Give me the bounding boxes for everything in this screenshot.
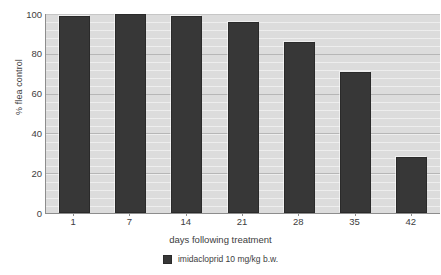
y-axis-tick-label: 20 [14,169,42,179]
bar [228,22,259,213]
x-axis-tickmark [355,213,356,216]
x-axis-tick-label: 14 [166,216,206,227]
x-axis-tickmark [298,213,299,216]
x-axis-tickmark [73,213,74,216]
x-axis-tickmark [186,213,187,216]
x-axis-tick-label: 42 [391,216,431,227]
x-axis-tickmark [129,213,130,216]
x-axis-tick-label: 21 [222,216,262,227]
chart-legend: imidacloprid 10 mg/kg b.w. [0,254,441,264]
bar [340,72,371,213]
flea-control-bar-chart: % flea control 020406080100 171421283542… [0,0,441,275]
x-axis-tickmark [242,213,243,216]
x-axis-tick-label: 7 [109,216,149,227]
x-axis-tick-labels: 171421283542 [45,216,439,232]
bar [59,16,90,213]
y-axis-tick-label: 0 [14,209,42,219]
bar [171,16,202,213]
plot-area [45,14,440,214]
legend-label: imidacloprid 10 mg/kg b.w. [178,254,278,264]
y-axis-tick-label: 100 [14,10,42,20]
x-axis-tickmark [411,213,412,216]
bar [396,157,427,213]
x-axis-title: days following treatment [0,234,441,245]
x-axis-tick-label: 28 [278,216,318,227]
bars-group [46,14,440,213]
x-axis-tick-label: 1 [53,216,93,227]
y-axis-tick-label: 80 [14,49,42,59]
y-axis-tick-label: 60 [14,89,42,99]
bar [284,42,315,213]
bar [115,14,146,213]
legend-swatch-icon [163,255,172,264]
x-axis-tick-label: 35 [335,216,375,227]
y-axis-tick-labels: 020406080100 [14,0,42,220]
y-axis-tick-label: 40 [14,129,42,139]
